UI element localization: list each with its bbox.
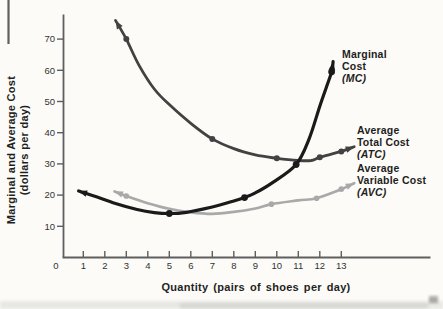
x-tick-label: 12 <box>315 260 326 271</box>
avc-label-abbr: (AVC) <box>357 186 387 198</box>
x-tick-label: 11 <box>293 260 303 271</box>
scan-artifact-speck <box>429 296 438 303</box>
x-tick-label: 1 <box>81 260 86 271</box>
x-tick-label: 2 <box>102 260 107 271</box>
axis-ticks: 01234567891011121310203040506070 <box>44 33 346 270</box>
y-tick-label: 10 <box>44 221 55 232</box>
mc-point-dot <box>293 161 300 168</box>
mc-curve <box>79 62 334 214</box>
cost-curves-chart: 01234567891011121310203040506070 Margina… <box>0 0 443 309</box>
x-tick-label: 5 <box>167 260 172 271</box>
atc-point-dot <box>123 36 129 42</box>
avc-point-dot <box>314 195 320 201</box>
y-tick-label: 50 <box>44 96 55 107</box>
x-axis-title: Quantity (pairs of shoes per day) <box>161 281 350 293</box>
y-tick-label: 40 <box>44 127 55 138</box>
y-tick-label: 60 <box>44 65 55 76</box>
textbook-figure-page: 01234567891011121310203040506070 Margina… <box>0 0 443 309</box>
atc-point-dot <box>338 148 344 154</box>
x-tick-label: 8 <box>231 260 236 271</box>
atc-point-dot <box>274 155 280 161</box>
mc-point-dot <box>166 210 173 217</box>
atc-label-line1: Average <box>357 124 399 136</box>
mc-point-dot <box>328 68 335 75</box>
curves <box>79 20 355 217</box>
atc-point-dot <box>317 154 323 160</box>
y-tick-label: 30 <box>44 158 55 169</box>
avc-point-dot <box>124 193 130 199</box>
mc-label-abbr: (MC) <box>342 72 366 84</box>
atc-point-dot <box>209 136 215 142</box>
avc-label-line1: Average <box>357 162 399 174</box>
mc-start-arrowhead-icon <box>79 191 88 197</box>
scan-artifact-band-2 <box>180 303 428 309</box>
atc-end-arrowhead-icon <box>345 147 354 153</box>
mc-label-line2: Cost <box>342 60 366 72</box>
x-tick-label: 4 <box>145 260 150 271</box>
atc-label-line2: Total Cost <box>357 136 410 148</box>
avc-end-arrowhead-icon <box>345 183 354 190</box>
x-tick-label: 13 <box>336 260 347 271</box>
atc-curve <box>116 20 355 160</box>
y-tick-label: 20 <box>44 189 55 200</box>
x-tick-label: 7 <box>210 260 215 271</box>
x-tick-label: 3 <box>124 260 129 271</box>
y-axis-title-line1: Marginal and Average Cost <box>5 76 17 225</box>
avc-label-line2: Variable Cost <box>357 174 426 186</box>
y-axis-title-line2: (dollars per day) <box>18 105 30 196</box>
atc-label-abbr: (ATC) <box>357 148 386 160</box>
avc-point-dot <box>339 186 345 192</box>
x-tick-label: 10 <box>272 260 283 271</box>
avc-point-dot <box>269 201 275 207</box>
x-tick-label: 6 <box>188 260 193 271</box>
y-tick-label: 70 <box>44 33 55 44</box>
mc-point-dot <box>241 194 248 201</box>
origin-label: 0 <box>53 260 58 271</box>
x-tick-label: 9 <box>253 260 258 271</box>
avc-start-arrowhead-icon <box>114 191 123 197</box>
mc-label-line1: Marginal <box>342 48 387 60</box>
